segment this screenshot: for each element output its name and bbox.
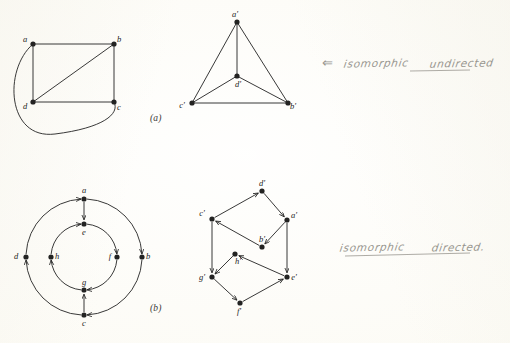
vertex-c bbox=[81, 312, 86, 317]
vertex-label-c-prime: c' bbox=[179, 100, 185, 110]
vertex-label-a: a bbox=[23, 34, 27, 44]
vertex-e-prime bbox=[284, 274, 289, 279]
vertex-label-d-prime: d' bbox=[235, 79, 241, 89]
vertex-label-b-prime: b' bbox=[290, 101, 296, 111]
vertex-f bbox=[114, 254, 119, 259]
figure-caption-a: (a) bbox=[150, 113, 162, 123]
graph-a-left: abdc bbox=[14, 34, 121, 134]
vertex-label-a: a bbox=[82, 185, 86, 195]
vertex-b bbox=[139, 254, 144, 259]
scanned-textbook-page: abdc a'd'c'b' abcdefgh d'c'a'b'h'g'e'f' … bbox=[0, 0, 510, 343]
vertex-b bbox=[111, 41, 116, 46]
vertex-label-b: b bbox=[146, 251, 150, 261]
vertex-label-c: c bbox=[117, 102, 121, 112]
vertex-h bbox=[48, 254, 53, 259]
note-word-isomorphic: isomorphic bbox=[343, 56, 410, 69]
graph-a-right: a'd'c'b' bbox=[179, 9, 296, 111]
handwritten-note-undirected: ⇐ isomorphic undirected bbox=[322, 52, 494, 71]
vertex-c-prime bbox=[209, 216, 214, 221]
vertex-g-prime bbox=[209, 274, 214, 279]
vertex-label-f-prime: f' bbox=[237, 306, 241, 316]
vertex-label-c-prime: c' bbox=[199, 208, 205, 218]
vertex-label-e-prime: e' bbox=[291, 272, 297, 282]
vertex-a bbox=[81, 196, 86, 201]
vertex-label-a-prime: a' bbox=[291, 210, 297, 220]
graph-b-right: d'c'a'b'h'g'e'f' bbox=[199, 178, 297, 316]
vertex-d bbox=[23, 254, 28, 259]
vertex-c bbox=[111, 99, 116, 104]
vertex-label-f: f bbox=[109, 251, 113, 261]
vertex-e bbox=[81, 221, 86, 226]
note-word-directed: directed. bbox=[431, 240, 486, 253]
vertex-g bbox=[81, 287, 86, 292]
vertex-label-h-prime: h' bbox=[235, 256, 241, 266]
vertex-d-prime bbox=[259, 188, 264, 193]
vertex-label-b: b bbox=[117, 34, 121, 44]
vertex-label-a-prime: a' bbox=[232, 9, 238, 19]
vertex-label-d: d bbox=[23, 101, 28, 111]
vertex-label-d-prime: d' bbox=[259, 178, 265, 188]
vertex-a bbox=[30, 41, 35, 46]
vertex-a-prime bbox=[234, 19, 239, 24]
vertex-label-g: g bbox=[82, 277, 86, 287]
left-arrow-icon: ⇐ bbox=[321, 55, 333, 70]
note-word-isomorphic-2: isomorphic bbox=[339, 240, 406, 253]
vertex-b-prime bbox=[259, 244, 264, 249]
vertex-d bbox=[30, 99, 35, 104]
figure-caption-b: (b) bbox=[150, 303, 162, 313]
graph-b-left: abcdefgh bbox=[14, 185, 150, 328]
vertex-f-prime bbox=[237, 300, 242, 305]
vertex-label-h: h bbox=[55, 251, 59, 261]
vertex-a-prime bbox=[284, 217, 289, 222]
vertex-d-prime bbox=[234, 73, 239, 78]
vertex-label-d: d bbox=[14, 251, 19, 261]
vertex-c-prime bbox=[189, 100, 194, 105]
vertex-label-e: e bbox=[82, 227, 86, 237]
vertex-label-c: c bbox=[82, 318, 86, 328]
vertex-label-b-prime: b' bbox=[259, 234, 265, 244]
note-word-undirected: undirected bbox=[429, 56, 495, 69]
vertex-label-g-prime: g' bbox=[199, 272, 205, 282]
